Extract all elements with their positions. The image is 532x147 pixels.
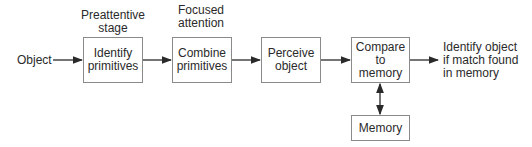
- input-label-object: Object: [17, 54, 52, 67]
- node-identify-primitives: Identify primitives: [83, 37, 143, 83]
- node-combine-primitives: Combine primitives: [172, 37, 232, 83]
- node-perceive-object: Perceive object: [261, 37, 321, 83]
- node-compare-to-memory: Compare to memory: [351, 37, 410, 83]
- node-memory: Memory: [351, 115, 410, 141]
- output-label: Identify object if match found in memory: [443, 41, 518, 80]
- stage-label-preattentive: Preattentive stage: [78, 9, 148, 35]
- stage-label-focused-attention: Focused attention: [166, 4, 236, 30]
